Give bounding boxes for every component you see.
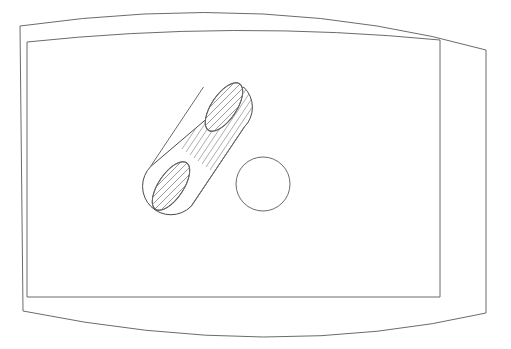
plate-top-edge <box>20 13 486 51</box>
cylinder-boss <box>130 66 299 216</box>
drawing-canvas <box>0 0 511 349</box>
panel-top-edge <box>27 30 440 42</box>
outer-plate-outline <box>20 13 486 338</box>
circular-hole <box>236 157 290 211</box>
plate-bottom-edge <box>23 311 486 337</box>
plate-left-edge <box>20 26 23 311</box>
technical-drawing-svg <box>0 0 511 349</box>
inner-panel-outline <box>27 30 440 297</box>
